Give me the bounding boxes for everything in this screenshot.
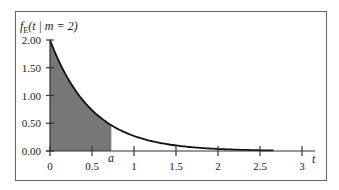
x-tick-label: 3 xyxy=(299,160,305,172)
x-tick-label: 0 xyxy=(47,160,53,172)
x-tick-label: 2 xyxy=(215,160,221,172)
a-annotation: a xyxy=(108,151,114,165)
density-chart: 0.000.501.001.502.0000.511.522.53 fE(t |… xyxy=(0,0,339,190)
y-tick-label: 0.50 xyxy=(22,117,42,129)
x-tick-label: 1.5 xyxy=(169,160,183,172)
y-tick-label: 1.00 xyxy=(22,90,42,102)
y-tick-label: 2.00 xyxy=(22,34,42,46)
y-tick-label: 1.50 xyxy=(22,62,42,74)
y-axis-title: fE(t | m = 2) xyxy=(20,19,78,35)
x-tick-label: 0.5 xyxy=(85,160,99,172)
y-tick-label: 0.00 xyxy=(22,145,42,157)
x-tick-label: 1 xyxy=(131,160,137,172)
x-tick-label: 2.5 xyxy=(253,160,267,172)
